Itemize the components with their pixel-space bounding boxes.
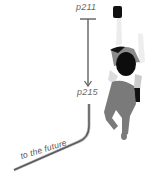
person-figure-icon [104,6,145,140]
timeline-diagram [0,0,153,176]
down-arrow-icon [85,19,92,86]
future-path-line [14,104,89,170]
